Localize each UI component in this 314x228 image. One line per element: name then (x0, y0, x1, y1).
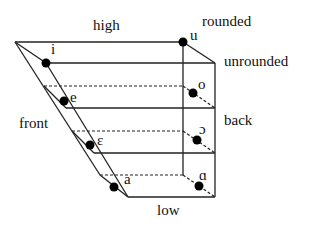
vowel-e: e (70, 90, 77, 105)
dot-o (189, 89, 198, 98)
label-unrounded: unrounded (224, 54, 288, 69)
label-back: back (224, 113, 252, 128)
vowel-epsilon: ε (97, 133, 103, 148)
dot-u (179, 38, 188, 47)
label-front: front (19, 116, 48, 131)
vowel-o: o (198, 77, 206, 92)
dot-a (110, 183, 119, 192)
dot-epsilon (86, 141, 95, 150)
label-high: high (93, 18, 120, 33)
label-rounded: rounded (202, 14, 251, 29)
vowel-space-diagram (0, 0, 314, 228)
vowel-a: a (124, 172, 131, 187)
label-low: low (157, 203, 180, 218)
dot-i (42, 59, 51, 68)
vowel-i: i (51, 42, 55, 57)
vowel-script-a: ɑ (199, 168, 207, 183)
dot-e (60, 97, 69, 106)
vowel-u: u (190, 28, 198, 43)
vowel-open-o: ɔ (199, 122, 206, 137)
